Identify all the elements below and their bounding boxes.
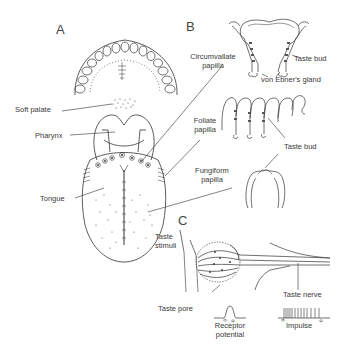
label-fungiform-line2: papilla (183, 176, 241, 185)
impulse-graph (278, 308, 330, 322)
label-taste-bud-top: Taste bud (294, 55, 327, 64)
label-pharynx: Pharynx (35, 132, 63, 141)
panel-label-c: C (178, 213, 187, 228)
panel-label-a: A (56, 22, 65, 37)
fungiform-papilla-drawing (246, 170, 285, 208)
upper-jaw-teeth (75, 40, 177, 95)
taste-bud-drawing (180, 230, 330, 292)
label-tongue: Tongue (40, 195, 65, 204)
leader-lines-a (62, 104, 115, 198)
label-taste-nerve: Taste nerve (283, 291, 322, 300)
leader-line-taste-bud-fungiform (265, 154, 278, 168)
receptor-potential-graph (214, 306, 246, 322)
label-fungiform-papilla: Fungiform papilla (183, 167, 241, 184)
label-receptor-line2: potential (208, 331, 252, 340)
label-von-ebners-gland: von Ebner's gland (261, 76, 321, 85)
leader-line-taste-bud-mid (268, 118, 285, 138)
label-receptor-potential: Receptor potential (208, 322, 252, 339)
foliate-papilla-drawing (222, 96, 305, 139)
label-impulse: Impulse (286, 322, 312, 331)
soft-palate-dots (112, 98, 135, 108)
leader-lines-b (142, 66, 232, 212)
tongue-outline (82, 153, 165, 263)
label-taste-pore: Taste pore (158, 305, 193, 314)
label-foliate-papilla: Foliate papilla (180, 117, 230, 134)
panel-label-b: B (186, 19, 195, 34)
label-soft-palate: Soft palate (15, 106, 51, 115)
label-circumvallate-papilla: Circumvallate papilla (178, 53, 248, 70)
label-taste-bud-mid: Taste bud (284, 143, 317, 152)
label-taste-stimuli: Taste stimuli (155, 233, 176, 250)
label-taste-stimuli-line2: stimuli (155, 242, 176, 251)
label-foliate-line2: papilla (180, 126, 230, 135)
label-circumvallate-line2: papilla (178, 62, 248, 71)
